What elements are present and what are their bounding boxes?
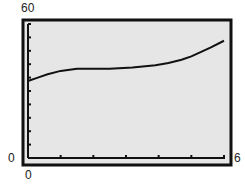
calculator-graph xyxy=(0,0,245,184)
plot-frame xyxy=(23,20,231,165)
